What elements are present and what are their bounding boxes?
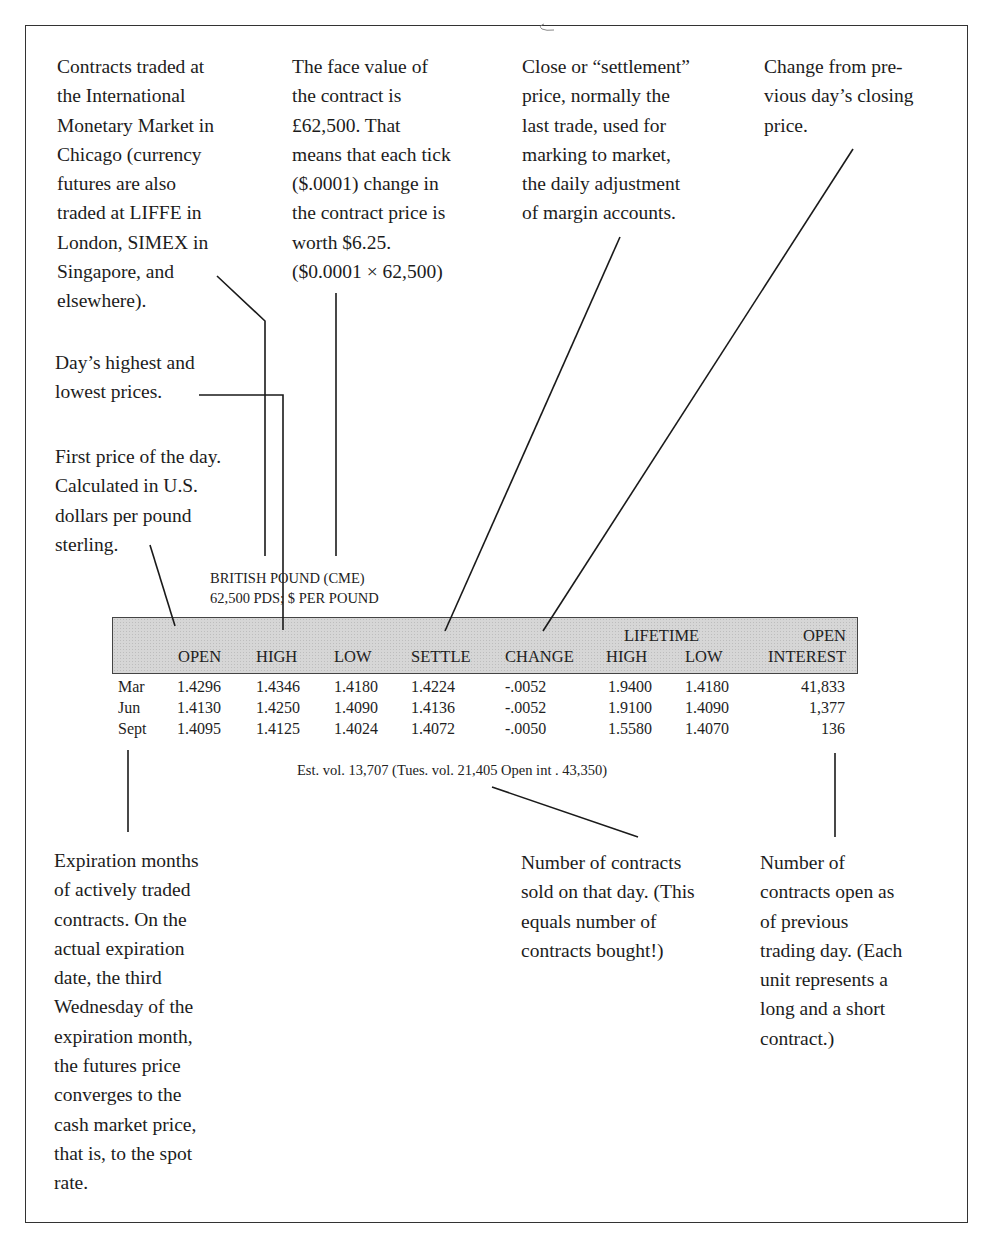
header-high: HIGH [256, 647, 297, 667]
cell-month: Sept [118, 720, 146, 739]
cell-lifetime-high: 1.9400 [608, 678, 652, 697]
header-low: LOW [334, 647, 372, 667]
header-open-interest-top: OPEN [760, 626, 846, 646]
cell-open-interest: 1,377 [760, 699, 845, 718]
header-open: OPEN [178, 647, 221, 667]
cell-lifetime-low: 1.4180 [685, 678, 729, 697]
pen-mark-icon [536, 22, 556, 34]
cell-low: 1.4090 [334, 699, 378, 718]
cell-open-interest: 41,833 [760, 678, 845, 697]
cell-low: 1.4180 [334, 678, 378, 697]
cell-open-interest: 136 [760, 720, 845, 739]
cell-settle: 1.4224 [411, 678, 455, 697]
cell-month: Mar [118, 678, 145, 697]
annotation-volume: Number of contracts sold on that day. (T… [521, 848, 695, 965]
annotation-open-interest: Number of contracts open as of previous … [760, 848, 902, 1053]
cell-open: 1.4296 [177, 678, 221, 697]
cell-settle: 1.4136 [411, 699, 455, 718]
listing-subtitle: 62,500 PDS; $ PER POUND [210, 589, 379, 608]
header-settle: SETTLE [411, 647, 471, 667]
header-lifetime: LIFETIME [624, 626, 699, 646]
cell-change: -.0052 [505, 678, 546, 697]
annotation-settle: Close or “settlement” price, normally th… [522, 52, 690, 228]
annotation-high-low: Day’s highest and lowest prices. [55, 348, 195, 407]
cell-lifetime-low: 1.4090 [685, 699, 729, 718]
header-lifetime-low: LOW [685, 647, 723, 667]
annotation-expiration: Expiration months of actively traded con… [54, 846, 199, 1198]
annotation-change: Change from pre- vious day’s closing pri… [764, 52, 914, 140]
cell-month: Jun [118, 699, 140, 718]
cell-high: 1.4125 [256, 720, 300, 739]
header-change: CHANGE [505, 647, 574, 667]
cell-lifetime-high: 1.5580 [608, 720, 652, 739]
table-header-band [112, 617, 858, 674]
header-open-interest-bottom: INTEREST [750, 647, 846, 667]
cell-lifetime-low: 1.4070 [685, 720, 729, 739]
cell-change: -.0052 [505, 699, 546, 718]
cell-low: 1.4024 [334, 720, 378, 739]
cell-lifetime-high: 1.9100 [608, 699, 652, 718]
cell-change: -.0050 [505, 720, 546, 739]
listing-title: BRITISH POUND (CME) [210, 569, 365, 588]
annotation-open: First price of the day. Calculated in U.… [55, 442, 221, 559]
cell-settle: 1.4072 [411, 720, 455, 739]
annotation-exchange: Contracts traded at the International Mo… [57, 52, 214, 316]
volume-summary: Est. vol. 13,707 (Tues. vol. 21,405 Open… [297, 762, 607, 779]
annotation-face-value: The face value of the contract is £62,50… [292, 52, 451, 286]
cell-open: 1.4130 [177, 699, 221, 718]
header-lifetime-high: HIGH [606, 647, 647, 667]
cell-high: 1.4346 [256, 678, 300, 697]
cell-high: 1.4250 [256, 699, 300, 718]
cell-open: 1.4095 [177, 720, 221, 739]
